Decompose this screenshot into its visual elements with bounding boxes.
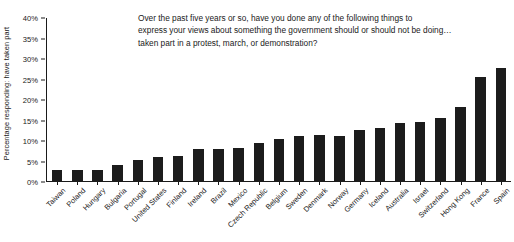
bar — [334, 136, 344, 182]
x-axis-tick-mark — [481, 182, 482, 185]
y-axis-tick-label: 15% — [23, 116, 38, 125]
x-axis-category-label: Taiwan — [45, 186, 68, 209]
x-axis-tick-mark — [138, 182, 139, 185]
bar — [153, 157, 163, 182]
y-axis-tick-mark — [41, 182, 45, 183]
x-axis-tick-mark — [501, 182, 502, 185]
y-axis-tick-label: 0% — [27, 178, 38, 187]
x-axis-tick-mark — [198, 182, 199, 185]
chart-title-line: express your views about something the g… — [138, 24, 508, 36]
x-axis-category-label: France — [468, 186, 491, 209]
bar — [233, 148, 243, 182]
y-axis-tick-label: 40% — [23, 14, 38, 23]
x-axis-tick-mark — [340, 182, 341, 185]
x-axis-tick-mark — [420, 182, 421, 185]
x-axis-tick-mark — [118, 182, 119, 185]
x-axis-tick-mark — [158, 182, 159, 185]
y-axis-tick-mark — [41, 100, 45, 101]
bar — [52, 170, 62, 182]
bar — [294, 136, 304, 182]
x-axis-tick-mark — [259, 182, 260, 185]
bar — [254, 143, 264, 182]
x-axis-category-label: Finland — [165, 186, 189, 210]
x-axis-tick-mark — [319, 182, 320, 185]
bar — [193, 149, 203, 182]
y-axis-tick-mark — [41, 38, 45, 39]
y-axis-tick-label: 35% — [23, 34, 38, 43]
bar — [213, 149, 223, 182]
chart-title: Over the past five years or so, have you… — [138, 12, 508, 49]
y-axis-tick-label: 30% — [23, 55, 38, 64]
bar — [173, 156, 183, 182]
x-axis-tick-mark — [400, 182, 401, 185]
bar — [395, 123, 405, 182]
x-axis-category-label: Spain — [491, 186, 511, 206]
x-axis-tick-mark — [440, 182, 441, 185]
y-axis-tick-mark — [41, 120, 45, 121]
bar — [274, 139, 284, 182]
x-axis-tick-mark — [57, 182, 58, 185]
bar — [375, 128, 385, 182]
y-axis-tick-label: 20% — [23, 96, 38, 105]
y-axis-tick-mark — [41, 79, 45, 80]
bar-chart-figure: Percentage responding: have taken part 0… — [0, 0, 514, 242]
y-axis-tick-mark — [41, 18, 45, 19]
chart-title-line: Over the past five years or so, have you… — [138, 12, 508, 24]
y-axis-title: Percentage responding: have taken part — [0, 0, 14, 186]
y-axis-tick-mark — [41, 161, 45, 162]
y-axis-tick-mark — [41, 59, 45, 60]
y-axis-tick-label: 25% — [23, 75, 38, 84]
x-axis-tick-mark — [279, 182, 280, 185]
y-axis-tick-label: 10% — [23, 137, 38, 146]
bar — [415, 122, 425, 182]
x-axis-tick-mark — [97, 182, 98, 185]
y-axis-tick-label: 5% — [27, 157, 38, 166]
x-axis-tick-mark — [77, 182, 78, 185]
y-axis-tick-labels: 0%5%10%15%20%25%30%35%40% — [14, 12, 40, 188]
x-axis-tick-mark — [461, 182, 462, 185]
y-axis-tick-mark — [41, 141, 45, 142]
chart-title-line: taken part in a protest, march, or demon… — [138, 37, 508, 49]
x-axis-tick-mark — [380, 182, 381, 185]
bar — [354, 130, 364, 182]
x-axis-category-labels: TaiwanPolandHungaryBulgariaPortugalUnite… — [47, 186, 511, 242]
bar — [112, 165, 122, 182]
x-axis-tick-mark — [239, 182, 240, 185]
x-axis-category-label: Ireland — [186, 186, 209, 209]
bar — [455, 107, 465, 182]
bar — [314, 135, 324, 182]
x-axis-tick-mark — [360, 182, 361, 185]
bar — [133, 160, 143, 182]
x-axis-tick-mark — [178, 182, 179, 185]
bar — [435, 118, 445, 182]
bar — [92, 170, 102, 182]
x-axis-tick-mark — [299, 182, 300, 185]
bar — [475, 77, 485, 182]
bar — [72, 170, 82, 182]
x-axis-tick-mark — [218, 182, 219, 185]
bar — [496, 68, 506, 182]
y-axis-title-text: Percentage responding: have taken part — [3, 26, 12, 159]
